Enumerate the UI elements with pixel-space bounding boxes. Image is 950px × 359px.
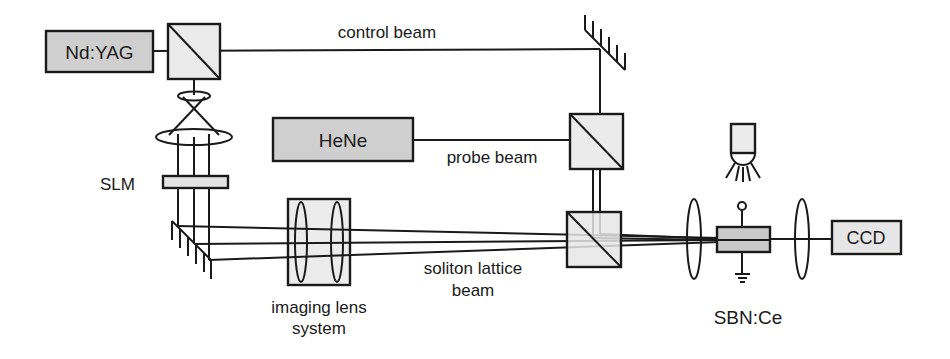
imaging-lens-label-1: imaging lens bbox=[271, 298, 366, 317]
ndyag-laser: Nd:YAG bbox=[46, 31, 153, 72]
imaging-lens-system: imaging lens system bbox=[271, 199, 366, 338]
imaging-lens-label-2: system bbox=[292, 319, 346, 338]
beam-splitter-1 bbox=[168, 24, 220, 79]
soliton-lattice-beams bbox=[178, 226, 720, 260]
white-light-lamp bbox=[726, 124, 760, 182]
ccd-camera: CCD bbox=[832, 221, 901, 254]
ndyag-label: Nd:YAG bbox=[65, 42, 133, 63]
beam-splitter-3 bbox=[567, 212, 621, 267]
beam-expander bbox=[156, 79, 232, 145]
mirror-1 bbox=[585, 15, 625, 70]
probe-beam-label: probe beam bbox=[447, 148, 538, 167]
optical-setup-diagram: Nd:YAG control beam HeNe probe beam bbox=[0, 0, 950, 359]
beam-splitter-2 bbox=[570, 114, 623, 169]
lattice-beam-label-2: beam bbox=[452, 281, 495, 300]
crystal-label: SBN:Ce bbox=[714, 307, 783, 328]
hene-label: HeNe bbox=[319, 130, 368, 151]
ccd-label: CCD bbox=[847, 228, 886, 248]
slm-label: SLM bbox=[100, 175, 135, 194]
control-beam-label: control beam bbox=[338, 23, 436, 42]
mirror-2 bbox=[172, 221, 211, 279]
sbn-crystal: SBN:Ce bbox=[714, 202, 783, 328]
lattice-beam-label-1: soliton lattice bbox=[424, 259, 522, 278]
hene-laser: HeNe bbox=[273, 118, 413, 161]
